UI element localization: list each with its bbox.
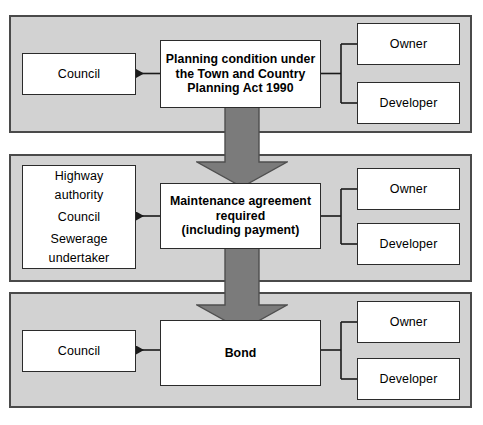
node-text-planning-line1: Planning condition under <box>166 52 315 67</box>
node-text-council: Council <box>58 67 100 82</box>
node-text-maintenance-line1: Maintenance agreement <box>170 194 311 209</box>
right-node-owner-top[interactable]: Owner <box>357 23 460 65</box>
node-text-planning-line2: the Town and Country <box>176 67 306 82</box>
left-node-council-top[interactable]: Council <box>22 53 136 95</box>
right-node-developer-middle[interactable]: Developer <box>357 223 460 265</box>
center-node-bond[interactable]: Bond <box>160 320 321 386</box>
node-text-developer: Developer <box>380 372 438 387</box>
node-text-maintenance-line2: required <box>216 209 266 224</box>
node-text-council: Council <box>58 344 100 359</box>
node-text-undertaker: undertaker <box>49 251 110 265</box>
node-text-owner: Owner <box>390 182 427 197</box>
center-node-maintenance-agreement[interactable]: Maintenance agreement required (includin… <box>160 183 321 249</box>
block-arrow-planning-to-maintenance <box>196 100 288 188</box>
node-text-planning-line3: Planning Act 1990 <box>187 81 293 96</box>
right-node-developer-bottom[interactable]: Developer <box>357 358 460 400</box>
flow-diagram: Council Planning condition under the Tow… <box>0 0 483 425</box>
right-node-developer-top[interactable]: Developer <box>357 82 460 124</box>
right-node-owner-middle[interactable]: Owner <box>357 168 460 210</box>
node-text-council-middle: Council <box>58 210 100 224</box>
node-text-maintenance-line3: (including payment) <box>182 223 300 238</box>
center-node-planning-condition[interactable]: Planning condition under the Town and Co… <box>160 40 321 108</box>
node-text-developer: Developer <box>380 237 438 252</box>
node-text-bond: Bond <box>225 346 257 361</box>
node-text-owner: Owner <box>390 37 427 52</box>
block-arrow-maintenance-to-bond <box>196 245 288 331</box>
left-node-authorities[interactable]: Highway authority Council Sewerage under… <box>22 165 136 269</box>
node-text-owner: Owner <box>390 315 427 330</box>
right-node-owner-bottom[interactable]: Owner <box>357 301 460 343</box>
node-text-developer: Developer <box>380 96 438 111</box>
node-text-highway: Highway <box>55 169 104 183</box>
node-text-sewerage: Sewerage <box>50 232 107 246</box>
node-text-authority: authority <box>55 188 104 202</box>
left-node-council-bottom[interactable]: Council <box>22 330 136 372</box>
